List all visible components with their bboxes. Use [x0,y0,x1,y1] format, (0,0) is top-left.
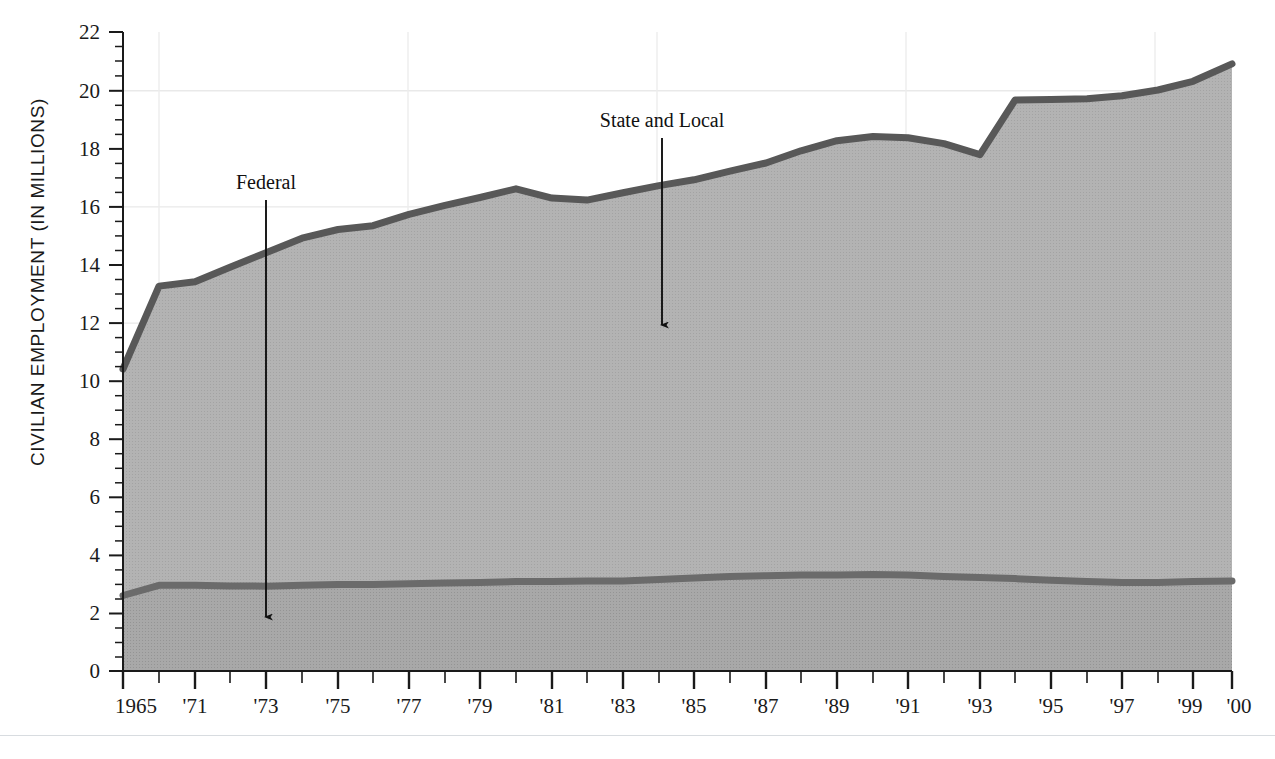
x-tick-93: '93 [968,694,993,718]
x-tick-91: '91 [896,694,921,718]
x-tick-71: '71 [183,694,208,718]
x-tick-77: '77 [397,694,422,718]
y-tick-2: 2 [90,601,101,625]
y-axis-minor-ticks [115,47,123,658]
y-tick-0: 0 [90,659,101,683]
annotation-federal-label: Federal [236,171,296,193]
x-tick-89: '89 [825,694,850,718]
x-tick-75: '75 [326,694,351,718]
y-axis-title: CIVILIAN EMPLOYMENT (IN MILLIONS) [27,98,48,466]
x-tick-81: '81 [540,694,565,718]
y-tick-16: 16 [79,195,100,219]
y-tick-12: 12 [79,311,100,335]
x-tick-83: '83 [611,694,636,718]
annotation-state-and-local-label: State and Local [600,109,725,131]
x-tick-85: '85 [682,694,707,718]
x-tick-73: '73 [254,694,279,718]
x-tick-87: '87 [754,694,779,718]
x-tick-97: '97 [1110,694,1135,718]
x-tick-00: '00 [1227,694,1252,718]
y-tick-4: 4 [90,543,101,567]
y-tick-22: 22 [79,20,100,44]
y-axis-tick-labels: 22 20 18 16 14 12 10 8 6 4 2 0 [79,20,101,683]
x-axis-tick-labels: 1965 '71 '73 '75 '77 '79 '81 '83 '85 '87… [115,694,1251,718]
y-tick-6: 6 [90,485,101,509]
x-tick-99: '99 [1178,694,1203,718]
y-tick-8: 8 [90,427,101,451]
y-tick-20: 20 [79,79,100,103]
x-tick-79: '79 [468,694,493,718]
footer-divider [0,735,1275,736]
y-tick-10: 10 [79,369,100,393]
x-tick-1965: 1965 [115,694,157,718]
civilian-employment-area-chart: 22 20 18 16 14 12 10 8 6 4 2 0 [0,0,1275,759]
y-tick-18: 18 [79,137,100,161]
x-tick-95: '95 [1039,694,1064,718]
x-axis-minor-ticks [159,671,1158,683]
chart-figure: 22 20 18 16 14 12 10 8 6 4 2 0 [0,0,1275,759]
y-tick-14: 14 [79,253,101,277]
x-axis-major-ticks [123,671,1232,689]
